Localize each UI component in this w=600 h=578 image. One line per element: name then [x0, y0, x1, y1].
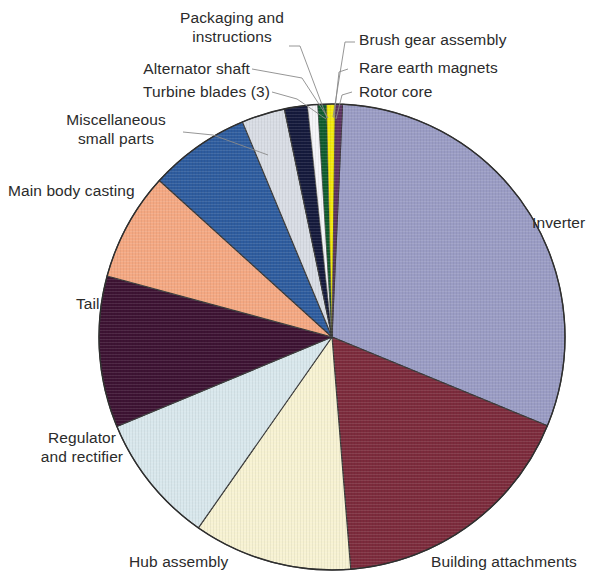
label-misc-line2: small parts — [48, 129, 184, 148]
label-hub-assembly: Hub assembly — [129, 552, 289, 571]
label-regulator-line2: and rectifier — [22, 447, 142, 466]
label-alternator-shaft: Alternator shaft — [92, 59, 250, 78]
label-turbine-blades: Turbine blades (3) — [82, 82, 270, 101]
label-misc-line1: Miscellaneous — [48, 110, 184, 129]
label-regulator-and-rectifier: Regulator and rectifier — [22, 428, 142, 466]
pie-chart-figure: Packaging and instructions Alternator sh… — [0, 0, 600, 578]
pie-texture — [99, 104, 565, 570]
label-building-attachments: Building attachments — [431, 552, 600, 571]
label-regulator-line1: Regulator — [22, 428, 142, 447]
label-packaging-line1: Packaging and — [152, 8, 312, 27]
label-brush-gear-assembly: Brush gear assembly — [359, 30, 589, 49]
label-packaging-line2: instructions — [152, 27, 312, 46]
label-packaging-and-instructions: Packaging and instructions — [152, 8, 312, 46]
label-tail: Tail — [76, 294, 156, 313]
label-main-body-casting: Main body casting — [8, 181, 218, 200]
label-inverter: Inverter — [532, 213, 600, 232]
label-miscellaneous-small-parts: Miscellaneous small parts — [48, 110, 184, 148]
label-rare-earth-magnets: Rare earth magnets — [359, 58, 589, 77]
label-rotor-core: Rotor core — [359, 82, 539, 101]
